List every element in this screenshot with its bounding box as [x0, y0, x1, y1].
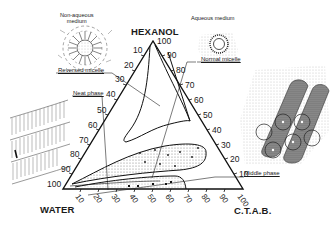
left-tick-30: 30 [115, 75, 124, 84]
non-aqueous-line2: medium [60, 19, 94, 25]
right-tick-90: 90 [167, 51, 176, 60]
middle-phase-caption: Middle phase [244, 170, 280, 176]
left-tick-70: 70 [79, 136, 88, 145]
vertex-label-hexanol: HEXANOL [131, 27, 179, 37]
normal-micelle-caption: Normal micelle [201, 56, 241, 62]
right-tick-100: 100 [157, 37, 171, 46]
right-tick-70: 70 [185, 81, 194, 90]
right-tick-60: 60 [194, 96, 203, 105]
right-tick-30: 30 [221, 141, 230, 150]
left-tick-20: 20 [124, 61, 133, 70]
neat-phase-illustration [8, 100, 72, 190]
right-tick-40: 40 [212, 126, 221, 135]
left-tick-90: 90 [61, 165, 70, 174]
left-tick-100: 100 [47, 180, 61, 189]
reversed-micelle-region [124, 46, 190, 142]
reversed-micelle-caption: Reversed micelle [58, 67, 104, 73]
aqueous-caption: Aqueous medium [191, 16, 235, 22]
right-tick-50: 50 [203, 111, 212, 120]
left-tick-60: 60 [88, 121, 97, 130]
middle-phase-illustration [240, 65, 330, 165]
right-tick-10: 10 [239, 170, 248, 179]
vertex-label-water: WATER [40, 205, 75, 215]
left-tick-80: 80 [70, 150, 79, 159]
ternary-diagram: HEXANOL WATER C.T.A.B. Non-aqueous mediu… [0, 0, 335, 226]
vertex-label-ctab: C.T.A.B. [234, 206, 272, 216]
right-tick-20: 20 [230, 155, 239, 164]
non-aqueous-caption: Non-aqueous medium [60, 13, 94, 25]
left-tick-10: 10 [133, 46, 142, 55]
neat-phase-caption: Neat phase [73, 90, 104, 96]
right-tick-80: 80 [176, 66, 185, 75]
left-tick-40: 40 [106, 90, 115, 99]
left-tick-50: 50 [97, 106, 106, 115]
